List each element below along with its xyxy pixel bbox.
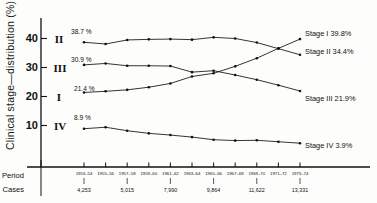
data-point — [148, 132, 151, 135]
data-point — [212, 69, 215, 72]
data-point — [299, 90, 302, 93]
stage-roman-iv: IV — [54, 120, 66, 132]
start-label-stage-iii: 30.9 % — [71, 56, 92, 63]
cases-labels: 4,2535,0157,9909,86411,62213,331 — [77, 178, 308, 193]
period-label: 1967–68 — [227, 171, 244, 176]
data-point — [299, 53, 302, 56]
y-tick-20: 20 — [26, 90, 47, 102]
period-label: 1953–54 — [76, 171, 93, 176]
data-point — [148, 38, 151, 41]
y-axis-title: Clinical stage—distribution (%) — [4, 1, 16, 150]
stage-roman-ii: II — [55, 33, 64, 45]
data-point — [148, 86, 151, 89]
clinical-stage-distribution-chart: Clinical stage—distribution (%) 40 30 20… — [0, 0, 377, 203]
end-label-stage-ii: Stage II 34.4% — [305, 47, 354, 56]
y-tick-30: 30 — [26, 61, 47, 73]
data-point — [277, 84, 280, 87]
cases-value: 7,990 — [164, 187, 178, 193]
data-point — [234, 139, 237, 142]
period-label: 1957–58 — [119, 171, 136, 176]
data-point — [277, 140, 280, 143]
row-label-period: Period — [2, 171, 24, 180]
period-label: 1963–64 — [184, 171, 201, 176]
data-point — [255, 78, 258, 81]
data-point — [255, 41, 258, 44]
period-label: 1971–72 — [270, 171, 287, 176]
data-point — [126, 64, 129, 67]
cases-value: 11,622 — [249, 187, 265, 193]
period-label: 1961–62 — [162, 171, 179, 176]
data-point — [191, 38, 194, 41]
series-group — [83, 36, 302, 144]
data-point — [126, 39, 129, 42]
end-label-stage-iv: Stage IV 3.9% — [305, 141, 353, 150]
period-label: 1969–70 — [248, 171, 265, 176]
data-point — [126, 129, 129, 132]
data-point — [234, 65, 237, 68]
data-point — [104, 43, 107, 46]
data-point — [191, 136, 194, 139]
chart-figure: Clinical stage—distribution (%) 40 30 20… — [0, 0, 377, 203]
data-point — [104, 90, 107, 93]
period-label: 1959–60 — [140, 171, 157, 176]
period-labels: 1953–541955–561957–581959–601961–621963–… — [76, 171, 309, 176]
data-point — [191, 75, 194, 78]
data-point — [169, 65, 172, 68]
data-point — [299, 38, 302, 41]
data-point — [191, 71, 194, 74]
data-point — [212, 36, 215, 39]
data-point — [212, 72, 215, 75]
y-tick-40: 40 — [26, 32, 47, 44]
end-label-stage-iii: Stage III 21.9% — [305, 94, 356, 103]
y-tick-10: 10 — [26, 119, 47, 131]
cases-value: 5,015 — [120, 187, 134, 193]
start-label-stage-i: 21.4 % — [74, 85, 95, 92]
data-point — [83, 41, 86, 44]
data-point — [255, 139, 258, 142]
series-line-stage-iv — [84, 127, 300, 143]
data-point — [83, 64, 86, 67]
data-point — [299, 142, 302, 145]
y-axis: 40 30 20 10 — [26, 18, 47, 167]
end-label-stage-i: Stage I 39.8% — [305, 29, 352, 38]
y-tick-label-40: 40 — [26, 32, 38, 44]
series-line-stage-i — [84, 39, 300, 92]
data-point — [104, 62, 107, 65]
start-label-stage-iv: 8.9 % — [74, 114, 91, 121]
start-label-stage-ii: 38.7 % — [71, 28, 92, 35]
cases-value: 13,331 — [292, 187, 309, 193]
data-point — [126, 89, 129, 92]
period-label: 1973–74 — [292, 171, 309, 176]
period-label: 1965–66 — [205, 171, 222, 176]
cases-value: 4,253 — [77, 187, 91, 193]
data-point — [169, 82, 172, 85]
period-label: 1955–56 — [97, 171, 114, 176]
data-point — [83, 127, 86, 130]
data-point — [234, 74, 237, 77]
row-label-cases: Cases — [2, 185, 24, 194]
data-point — [277, 47, 280, 50]
data-point — [212, 138, 215, 141]
y-tick-label-10: 10 — [26, 119, 38, 131]
data-point — [148, 64, 151, 67]
cases-value: 9,864 — [207, 187, 221, 193]
y-axis-title-text: Clinical stage—distribution (%) — [4, 1, 16, 150]
data-point — [104, 126, 107, 129]
data-point — [234, 37, 237, 40]
data-point — [255, 57, 258, 60]
data-point — [169, 38, 172, 41]
stage-roman-iii: III — [54, 62, 67, 74]
y-tick-label-20: 20 — [26, 90, 38, 102]
y-tick-label-30: 30 — [26, 61, 38, 73]
data-point — [169, 134, 172, 137]
stage-roman-i: I — [57, 91, 61, 103]
data-point — [83, 91, 86, 94]
x-axis-ticks — [84, 163, 300, 168]
